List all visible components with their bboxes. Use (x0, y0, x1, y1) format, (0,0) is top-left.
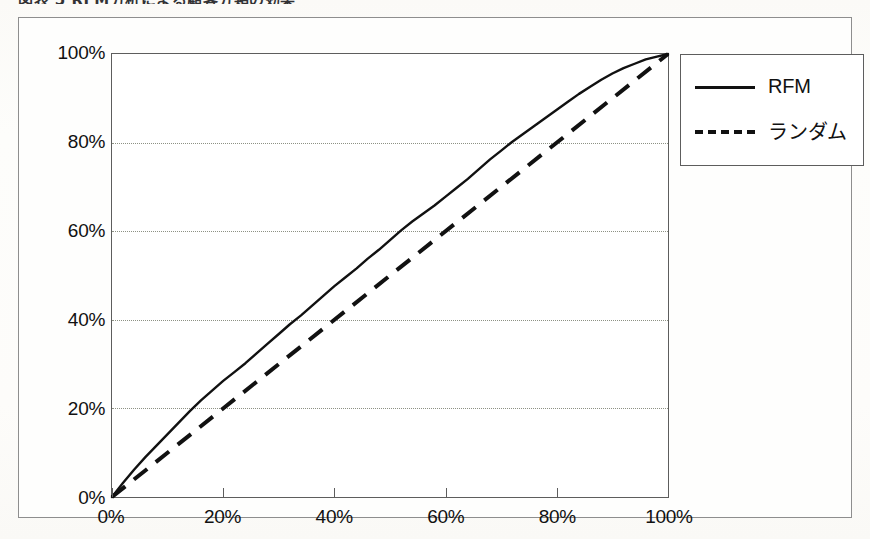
legend-entry-rfm: RFM (695, 73, 855, 99)
x-tick-label-80: 80% (512, 506, 602, 528)
y-tick-label-100: 100% (25, 42, 105, 64)
x-tickmark-80 (557, 488, 558, 497)
legend-swatch-dashed-line-icon (695, 123, 755, 137)
y-tick-label-80: 80% (25, 131, 105, 153)
plot-area (111, 53, 669, 498)
figure-frame: 100% 80% 60% 40% 20% 0% (18, 17, 852, 518)
series-line-random (112, 54, 668, 497)
y-tick-label-40: 40% (25, 309, 105, 331)
chart-lines (112, 54, 668, 497)
x-tickmark-60 (446, 488, 447, 497)
x-tick-label-20: 20% (178, 506, 268, 528)
y-tick-label-60: 60% (25, 220, 105, 242)
chart-legend: RFM ランダム (680, 54, 864, 166)
x-tick-label-40: 40% (289, 506, 379, 528)
x-tick-label-100: 100% (624, 506, 714, 528)
legend-entry-random: ランダム (695, 117, 855, 143)
figure-page: 図表 5 RFM分析による顧客分類の効果 100% 80% 60% 40% 20… (0, 0, 870, 539)
figure-caption: 図表 5 RFM分析による顧客分類の効果 (18, 0, 458, 4)
x-tick-label-0: 0% (66, 506, 156, 528)
y-axis-labels: 100% 80% 60% 40% 20% 0% (19, 53, 105, 498)
x-axis-labels: 0% 20% 40% 60% 80% 100% (111, 506, 669, 536)
legend-label-rfm: RFM (768, 75, 811, 98)
x-tickmark-0 (112, 488, 113, 497)
legend-label-random: ランダム (768, 116, 847, 145)
x-tickmark-20 (223, 488, 224, 497)
x-tick-label-60: 60% (401, 506, 491, 528)
y-tick-label-20: 20% (25, 398, 105, 420)
x-tickmark-40 (334, 488, 335, 497)
x-tickmark-100 (668, 488, 669, 497)
legend-swatch-solid-line-icon (695, 79, 755, 93)
